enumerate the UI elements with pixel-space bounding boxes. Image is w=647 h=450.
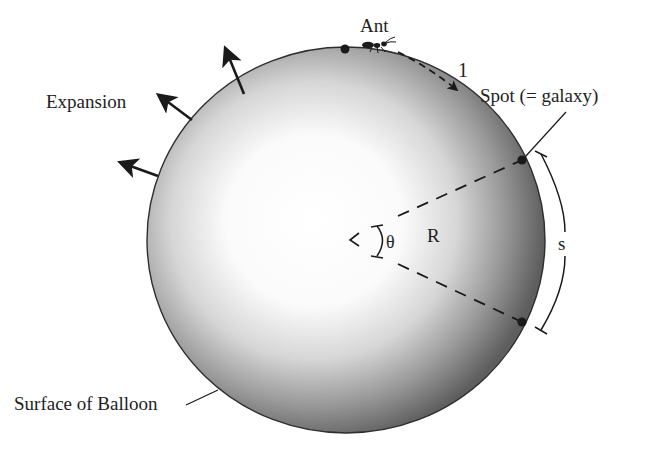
expansion-arrow-icon (122, 163, 158, 176)
ant-label: Ant (360, 16, 389, 35)
distance-one-label: 1 (458, 60, 468, 80)
surface-leader-line (186, 390, 218, 405)
balloon-diagram (0, 0, 647, 450)
galaxy-spot-lower (517, 317, 526, 326)
top-spot-dot (341, 45, 350, 54)
radius-label: R (427, 226, 440, 245)
spot-leader-line (525, 112, 566, 157)
angle-label: θ (386, 233, 395, 251)
arc-length-label: s (558, 234, 565, 253)
spot-label: Spot (= galaxy) (480, 86, 598, 105)
expansion-arrow-icon (160, 96, 192, 120)
expansion-label: Expansion (46, 92, 126, 111)
galaxy-spot-upper (517, 155, 526, 164)
surface-label: Surface of Balloon (14, 394, 158, 413)
